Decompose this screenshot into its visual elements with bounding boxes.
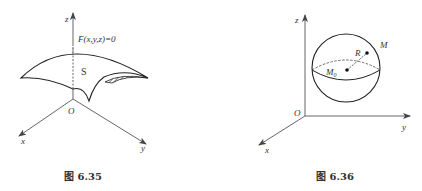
y-axis bbox=[73, 99, 146, 144]
sphere bbox=[312, 34, 380, 102]
equator-back bbox=[312, 60, 380, 70]
diagram-canvas: z x y O F(x,y,z)=0 S 图 6.35 z y x O bbox=[0, 0, 422, 191]
surface-point-m bbox=[365, 51, 369, 55]
equator-front bbox=[312, 70, 380, 80]
center-point-label: M0 bbox=[325, 67, 337, 78]
z-axis-label: z bbox=[64, 14, 69, 24]
figure-caption: 图 6.36 bbox=[316, 171, 354, 182]
x-axis bbox=[259, 116, 305, 145]
x-axis-label: x bbox=[264, 145, 269, 155]
origin-label: O bbox=[294, 108, 301, 118]
figure-6-35: z x y O F(x,y,z)=0 S 图 6.35 bbox=[19, 13, 148, 182]
center-point-m0 bbox=[345, 68, 349, 72]
x-axis-label: x bbox=[20, 136, 25, 146]
equation-label: F(x,y,z)=0 bbox=[77, 34, 116, 44]
z-axis-label: z bbox=[294, 15, 299, 25]
figure-6-36: z y x O M0 R M 图 6.36 bbox=[259, 15, 410, 182]
surface-label: S bbox=[81, 66, 87, 77]
figure-caption: 图 6.35 bbox=[64, 171, 102, 182]
surface-shading bbox=[105, 76, 148, 83]
surface-point-label: M bbox=[379, 40, 388, 50]
origin-label: O bbox=[68, 106, 75, 116]
radius-label: R bbox=[354, 48, 361, 58]
y-axis-label: y bbox=[401, 122, 406, 132]
y-axis-label: y bbox=[140, 143, 145, 153]
x-axis bbox=[19, 99, 73, 136]
